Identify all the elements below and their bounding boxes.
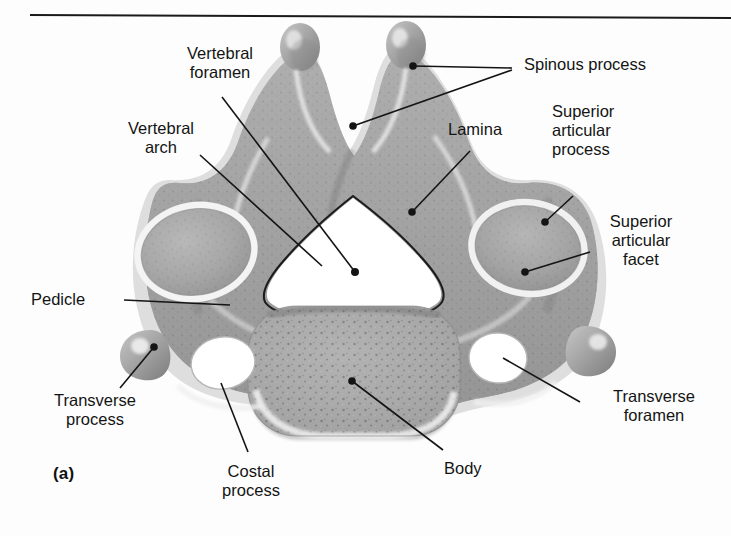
label-superior-articular-process: Superior articular process [552,102,672,159]
leader-pedicle [124,300,230,305]
leader-vertebral-arch [200,155,322,266]
figure-panel: Vertebral foramen Vertebral arch Spinous… [0,0,731,536]
leader-lamina [412,151,470,212]
leader-transverse-foramen [503,358,580,402]
leader-transverse-process [120,347,154,388]
label-transverse-process: Transverse process [25,391,165,429]
leader-superior-articular-process [545,196,573,222]
leader-body [352,381,443,450]
label-spinous-process: Spinous process [524,55,714,74]
label-superior-articular-facet: Superior articular facet [580,212,702,269]
leader-spinous-process-base [353,70,512,126]
label-pedicle: Pedicle [31,290,131,309]
label-body: Body [444,459,534,478]
leader-spinous-process-tip [413,66,512,68]
label-vertebral-arch: Vertebral arch [98,119,224,157]
leader-costal-process [221,383,248,452]
label-transverse-foramen: Transverse foramen [584,387,724,425]
leader-vertebral-foramen [222,97,355,272]
label-vertebral-foramen: Vertebral foramen [152,44,288,82]
figure-part-marker: (a) [53,464,74,484]
label-costal-process: Costal process [194,462,308,500]
label-lamina: Lamina [448,120,538,139]
